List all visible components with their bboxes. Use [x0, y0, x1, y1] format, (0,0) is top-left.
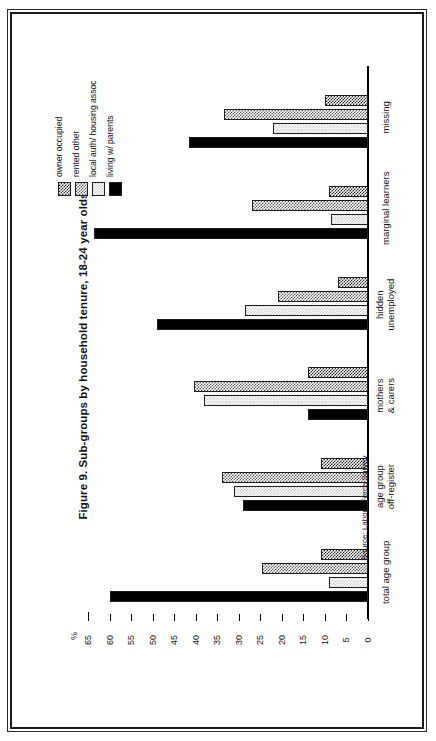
bar — [273, 123, 368, 134]
bar — [157, 319, 368, 330]
bar — [331, 214, 368, 225]
axis-tick-label: 50 — [148, 629, 158, 651]
category-label-line: missing — [381, 58, 392, 178]
medium-checker-swatch — [75, 182, 88, 196]
category-label: missing — [381, 58, 392, 178]
bar — [110, 591, 368, 602]
axis-tick — [260, 614, 261, 621]
axis-tick-label: 5 — [341, 629, 351, 651]
axis-tick-label: 40 — [191, 629, 201, 651]
axis-tick — [196, 614, 197, 621]
bar — [338, 277, 368, 288]
bar-group — [88, 367, 368, 420]
axis-tick-label: 65 — [83, 629, 93, 651]
bar-group — [88, 277, 368, 330]
axis-tick-label: 10 — [320, 629, 330, 651]
bar — [204, 395, 368, 406]
bar — [308, 367, 368, 378]
source-note: Source: Labour Force Survey — [360, 456, 369, 561]
legend-item-label: rented other — [71, 131, 81, 177]
bar-group — [88, 549, 368, 602]
axis-tick-label: 20 — [277, 629, 287, 651]
bar-group — [88, 458, 368, 511]
axis-tick — [325, 614, 326, 621]
dark-checker-swatch — [58, 182, 71, 196]
bar — [94, 228, 368, 239]
bar-group — [88, 95, 368, 148]
bar — [329, 186, 368, 197]
axis-tick-label: 35 — [212, 629, 222, 651]
axis-tick-label: 0 — [363, 629, 373, 651]
axis-tick — [368, 614, 369, 621]
axis-tick-label: 55 — [126, 629, 136, 651]
bar — [329, 577, 368, 588]
axis-tick — [303, 614, 304, 621]
figure-container: Figure 9. Sub-groups by household tenure… — [0, 0, 436, 741]
axis-tick — [282, 614, 283, 621]
axis-tick-label: 25 — [255, 629, 265, 651]
bar — [243, 500, 368, 511]
bar — [262, 563, 368, 574]
axis-tick — [217, 614, 218, 621]
axis-tick — [88, 612, 89, 621]
bar — [194, 381, 368, 392]
axis-tick-label: 60 — [105, 629, 115, 651]
axis-unit-label: % — [69, 632, 79, 640]
axis-tick — [131, 614, 132, 621]
chart-plot-area: % 05101520253035404550556065total age gr… — [88, 70, 368, 615]
bar — [222, 472, 368, 483]
axis-tick — [153, 614, 154, 621]
bar — [325, 95, 368, 106]
bar — [234, 486, 368, 497]
axis-tick-label: 15 — [298, 629, 308, 651]
axis-tick — [110, 614, 111, 621]
legend-item-label: owner occupied — [54, 117, 64, 177]
axis-tick — [239, 614, 240, 621]
bar — [189, 137, 368, 148]
bar — [252, 200, 368, 211]
bar — [308, 409, 368, 420]
axis-tick-label: 30 — [234, 629, 244, 651]
axis-tick-label: 45 — [169, 629, 179, 651]
axis-tick — [346, 614, 347, 621]
bar — [224, 109, 368, 120]
bar — [278, 291, 368, 302]
bar-group — [88, 186, 368, 239]
bar — [245, 305, 368, 316]
axis-tick — [174, 614, 175, 621]
